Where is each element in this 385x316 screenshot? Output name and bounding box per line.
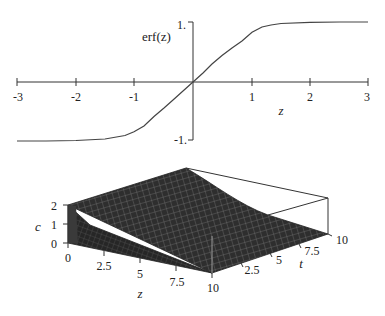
surface-plot: 2 1 0 c 0 2.5 5 7.5 10 z 2.5 5 7.5 10 t <box>0 0 385 316</box>
t-tick-label: 2.5 <box>245 263 260 277</box>
z-axis-label: z <box>136 286 142 301</box>
t-tick-label: 5 <box>276 253 282 267</box>
c-axis-label: c <box>35 219 41 234</box>
z-tick-label: 5 <box>137 267 143 281</box>
surface-top <box>68 168 328 273</box>
z-tick-label: 7.5 <box>170 275 185 289</box>
z-tick-label: 10 <box>207 281 219 295</box>
c-tick-label: 2 <box>51 199 57 213</box>
t-tick-label: 7.5 <box>305 244 320 258</box>
z-tick-label: 2.5 <box>97 259 112 273</box>
t-axis-label: t <box>299 256 303 271</box>
z-tick-label: 0 <box>65 251 71 265</box>
c-tick-label: 1 <box>51 218 57 232</box>
c-tick-label: 0 <box>51 237 57 251</box>
t-tick-label: 10 <box>336 233 348 247</box>
